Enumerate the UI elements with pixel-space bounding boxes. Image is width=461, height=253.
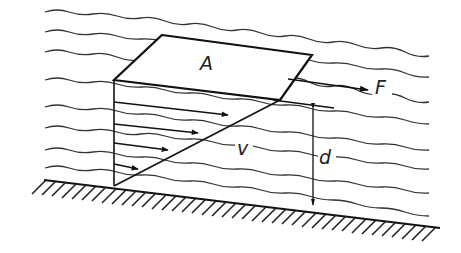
- label-depth-d: d: [319, 146, 332, 168]
- label-force-F: F: [375, 76, 387, 98]
- velocity-arrow-4: [114, 164, 138, 169]
- moving-plate: [114, 35, 312, 100]
- bed-hatching: [32, 180, 436, 241]
- label-area-A: A: [198, 52, 213, 74]
- force-arrow: [288, 79, 368, 90]
- velocity-profile-line: [114, 100, 280, 186]
- fluid-wave-lines: [45, 10, 429, 216]
- velocity-arrow-3: [114, 143, 168, 150]
- velocity-arrow-2: [114, 124, 198, 133]
- label-velocity-v: v: [237, 137, 249, 159]
- velocity-arrow-1: [114, 102, 228, 115]
- fixed-bed: [32, 180, 440, 241]
- shear-flow-diagram: A F v d: [0, 0, 461, 253]
